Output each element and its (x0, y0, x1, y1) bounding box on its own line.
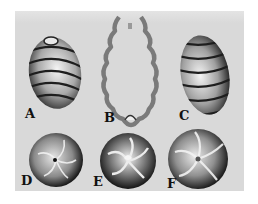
illustration-plate: A B (15, 11, 244, 191)
spiral-ovoid-a-icon (25, 31, 85, 111)
figure-label-f: F (167, 177, 176, 190)
figure-f (167, 128, 229, 190)
figure-label-b: B (104, 111, 115, 124)
figure-c (175, 29, 235, 117)
figure-e (100, 132, 156, 190)
figure-label-d: D (21, 174, 32, 187)
spiral-apical-e-icon (100, 132, 156, 190)
spiral-apical-d-icon (28, 132, 84, 188)
figure-label-c: C (179, 109, 189, 122)
figure-label-e: E (93, 175, 103, 188)
figure-a (25, 31, 85, 111)
spiral-ovoid-c-icon (175, 29, 235, 117)
spiral-apical-f-icon (167, 128, 229, 190)
figure-d (28, 132, 84, 188)
figure-label-a: A (25, 107, 35, 120)
